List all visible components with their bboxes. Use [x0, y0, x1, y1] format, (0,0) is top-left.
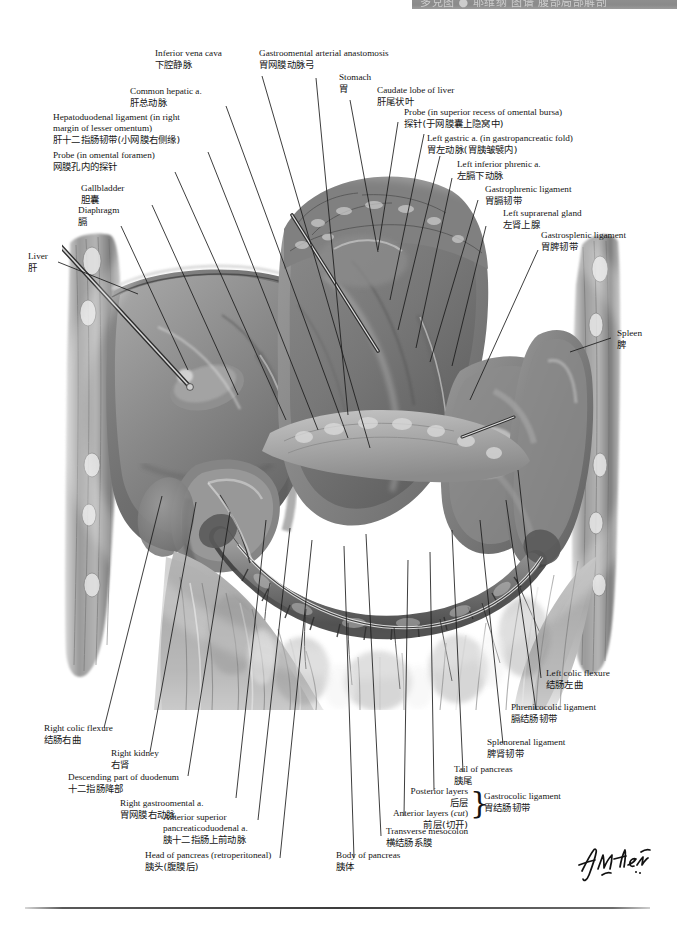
- label-tail-of-pancreas: Tail of pancreas 胰尾: [454, 764, 513, 786]
- brace-glyph: }: [470, 786, 480, 820]
- label-gastrosplenic-ligament: Gastrosplenic ligament 胃脾韧带: [541, 230, 626, 252]
- label-descending-part-of-duodenum: Descending part of duodenum 十二指肠降部: [68, 772, 179, 794]
- label-diaphragm: Diaphragm 膈: [78, 205, 119, 227]
- label-probe-superior-recess: Probe (in superior recess of omental bur…: [404, 107, 562, 129]
- label-common-hepatic-a: Common hepatic a. 肝总动脉: [130, 86, 202, 108]
- label-body-of-pancreas: Body of pancreas 胰体: [336, 850, 400, 872]
- artist-signature: [578, 845, 654, 885]
- label-right-gastroomental-a: Right gastroomental a. 胃网膜右动脉: [120, 798, 203, 820]
- anterior-layers-en: Anterior layers (cut): [338, 808, 468, 819]
- label-gallbladder: Gallbladder 胆囊: [81, 183, 124, 205]
- label-gastrocolic-ligament: Gastrocolic ligament 胃结肠韧带: [484, 791, 561, 813]
- label-splenorenal-ligament: Splenorenal ligament 脾肾韧带: [487, 737, 565, 759]
- label-left-gastric-a: Left gastric a. (in gastropancreatic fol…: [427, 133, 573, 155]
- label-head-of-pancreas: Head of pancreas (retroperitoneal) 胰头(腹膜…: [145, 850, 271, 872]
- label-posterior-layers: Posterior layers 后层: [362, 786, 468, 808]
- caudate-lobe-region: [316, 235, 408, 287]
- label-hepatoduodenal-ligament: Hepatoduodenal ligament (in right margin…: [53, 112, 180, 145]
- anatomical-illustration: [62, 165, 622, 710]
- label-right-colic-flexure: Right colic flexure 结肠右曲: [44, 723, 113, 745]
- illustration-svg: [62, 165, 622, 710]
- label-gastrophrenic-ligament: Gastrophrenic ligament 胃膈韧带: [485, 184, 572, 206]
- label-spleen: Spleen 脾: [617, 328, 642, 350]
- page-header-banner: 多克图 ● 耶维纲 图谱 腹部局部解剖: [412, 0, 677, 9]
- label-right-kidney: Right kidney 右肾: [111, 748, 159, 770]
- label-inferior-vena-cava: Inferior vena cava 下腔静脉: [155, 48, 222, 70]
- footer-rule: [25, 907, 650, 909]
- banner-title-text: 多克图 ● 耶维纲 图谱 腹部局部解剖: [420, 0, 607, 9]
- label-transverse-mesocolon: Transverse mesocolon 横结肠系膜: [386, 826, 468, 848]
- label-gastroomental-anastomosis: Gastroomental arterial anastomosis 胃网膜动脉…: [259, 48, 389, 70]
- label-left-suprarenal-gland: Left suprarenal gland 左肾上腺: [503, 208, 582, 230]
- label-left-colic-flexure: Left colic flexure 结肠左曲: [546, 668, 610, 690]
- signature-svg: [578, 845, 654, 885]
- label-caudate-lobe-of-liver: Caudate lobe of liver 肝尾状叶: [377, 85, 454, 107]
- label-phrenicocolic-ligament: Phrenicocolic ligament 膈结肠韧带: [511, 702, 596, 724]
- label-liver: Liver 肝: [28, 251, 48, 273]
- label-stomach: Stomach 胃: [339, 72, 371, 94]
- anatomy-plate-page: 多克图 ● 耶维纲 图谱 腹部局部解剖: [0, 0, 677, 929]
- label-left-inferior-phrenic-a: Left inferior phrenic a. 左膈下动脉: [457, 159, 541, 181]
- label-probe-omental-foramen: Probe (in omental foramen) 网膜孔内的探针: [53, 150, 155, 172]
